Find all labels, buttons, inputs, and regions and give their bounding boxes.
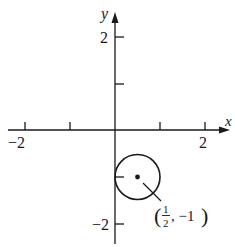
y-tick-label-neg2: −2 bbox=[92, 216, 109, 233]
fraction-denominator: 2 bbox=[163, 217, 169, 229]
y-axis-arrow-icon bbox=[112, 12, 119, 23]
x-axis-label: x bbox=[224, 113, 232, 129]
center-point bbox=[135, 175, 140, 180]
y-tick-label-pos2: 2 bbox=[100, 29, 108, 46]
x-tick-label-neg2: −2 bbox=[8, 134, 25, 151]
point-annotation: ( 1 2 , −1 ) bbox=[154, 203, 208, 229]
y-axis-label: y bbox=[99, 5, 109, 23]
fraction-numerator: 1 bbox=[163, 203, 169, 215]
open-paren: ( bbox=[154, 203, 161, 228]
x-tick-label-pos2: 2 bbox=[199, 134, 207, 151]
annotation-rest: , −1 bbox=[171, 208, 194, 224]
coordinate-plane: y x −2 2 2 −2 ( 1 2 , −1 ) bbox=[0, 0, 235, 247]
close-paren: ) bbox=[201, 203, 208, 228]
